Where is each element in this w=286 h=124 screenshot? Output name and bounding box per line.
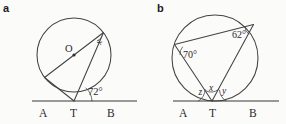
panel-b-diagram: 70° 62° z x y A T B bbox=[143, 0, 286, 124]
figure-root: a O x 72° A bbox=[0, 0, 286, 124]
angle-label-70-b: 70° bbox=[183, 49, 197, 60]
point-label-A-b: A bbox=[179, 107, 188, 119]
chord-lower-left-to-T-a bbox=[45, 78, 75, 102]
point-label-B-b: B bbox=[249, 107, 257, 119]
angle-label-x-b: x bbox=[208, 83, 214, 93]
angle-label-y-b: y bbox=[221, 86, 227, 96]
figure-panel-a: a O x 72° A bbox=[0, 0, 143, 124]
figure-panel-b: b 70° 62° z bbox=[143, 0, 286, 124]
angle-label-72-a: 72° bbox=[88, 86, 103, 97]
point-label-B-a: B bbox=[107, 107, 115, 119]
angle-label-z-b: z bbox=[198, 87, 203, 97]
point-label-T-a: T bbox=[70, 107, 77, 119]
angle-label-62-b: 62° bbox=[232, 29, 246, 40]
point-label-T-b: T bbox=[209, 107, 216, 119]
centre-label-O-a: O bbox=[65, 43, 73, 54]
point-label-A-a: A bbox=[39, 107, 48, 119]
panel-a-diagram: O x 72° A T B bbox=[0, 0, 143, 124]
angle-label-x-a: x bbox=[93, 38, 104, 47]
centre-point-O-a bbox=[72, 53, 75, 56]
